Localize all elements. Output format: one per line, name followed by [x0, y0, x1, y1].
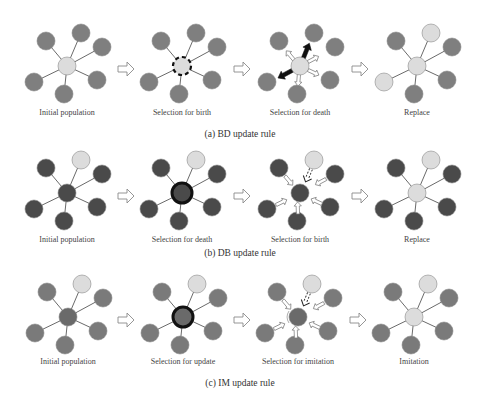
row-bd: Initial population Selection for birth S… [25, 24, 461, 140]
panel-label: Selection for death [270, 108, 330, 117]
row-caption: (b) DB update rule [204, 248, 276, 259]
row-caption: (c) IM update rule [205, 378, 274, 389]
bd-replace-graph [375, 24, 461, 103]
hollow-arrow-icon [310, 196, 324, 208]
im-selection-update-graph [141, 275, 227, 354]
panel-label: Selection for birth [153, 108, 211, 117]
dashed-arrow-icon [299, 291, 313, 307]
hollow-arrow-icon [274, 197, 288, 209]
im-initial-population-graph [26, 275, 112, 354]
selected-node-ring [173, 307, 193, 327]
step-arrow-icon [352, 62, 368, 76]
panel-label: Replace [404, 108, 430, 117]
step-arrow-icon [234, 189, 250, 203]
panel-label: Selection for death [152, 235, 212, 244]
step-arrow-icon [234, 62, 250, 76]
hollow-arrow-icon [308, 320, 322, 332]
row-im: Initial population Selection for update … [26, 275, 458, 389]
selected-node-dashed-ring [173, 57, 191, 75]
db-selection-birth-graph [258, 151, 344, 230]
bd-selection-birth-graph [140, 24, 226, 103]
bd-selection-death-graph [258, 24, 344, 103]
hollow-arrow-icon [312, 300, 326, 312]
panel-label: Initial population [39, 235, 94, 244]
hollow-arrow-icon [280, 298, 293, 312]
panel-label: Initial population [39, 108, 94, 117]
hollow-arrow-icon [294, 74, 302, 87]
panel-label: Selection for imitation [262, 357, 334, 366]
hollow-arrow-icon [314, 176, 328, 188]
im-selection-imitation-graph [256, 275, 342, 354]
db-selection-death-graph [140, 151, 226, 230]
step-arrow-icon [350, 313, 366, 327]
hollow-arrow-icon [282, 174, 295, 188]
step-arrow-icon [118, 62, 134, 76]
row-caption: (a) BD update rule [205, 129, 276, 140]
step-arrow-icon [234, 313, 250, 327]
step-arrow-icon [118, 313, 134, 327]
selected-node-ring [172, 183, 192, 203]
step-arrow-icon [118, 189, 134, 203]
figure-canvas: Initial population Selection for birth S… [0, 0, 481, 400]
bd-initial-population-graph [25, 24, 111, 103]
panel-label: Selection for update [151, 357, 216, 366]
im-imitation-graph [372, 275, 458, 354]
step-arrow-icon [352, 189, 368, 203]
panel-label: Imitation [399, 357, 428, 366]
row-db: Initial population Selection for death S… [25, 151, 461, 259]
db-initial-population-graph [25, 151, 111, 230]
db-replace-graph [375, 151, 461, 230]
hollow-arrow-icon [272, 321, 286, 333]
update-rules-figure: Initial population Selection for birth S… [0, 0, 481, 400]
panel-label: Selection for birth [271, 235, 329, 244]
panel-label: Replace [404, 235, 430, 244]
dashed-arrow-icon [301, 167, 315, 183]
panel-label: Initial population [40, 357, 95, 366]
